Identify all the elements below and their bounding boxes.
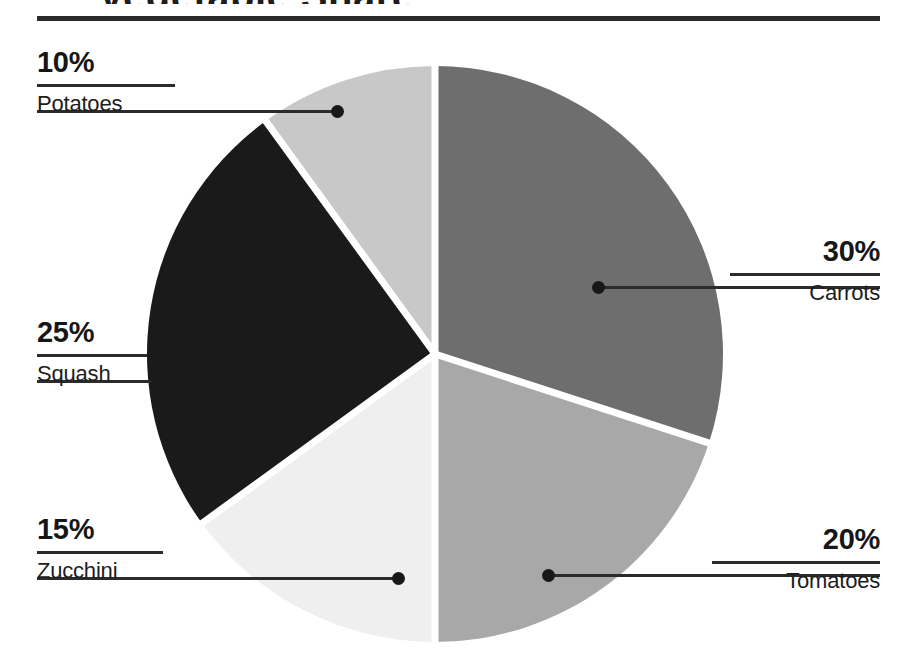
callout-tomatoes-label: Tomatoes <box>712 568 880 593</box>
callout-potatoes: 10% Potatoes <box>37 48 175 116</box>
callout-tomatoes-rule <box>712 561 880 564</box>
leader-dot-zucchini <box>392 572 405 585</box>
leader-dot-potatoes <box>331 105 344 118</box>
callout-zucchini-label: Zucchini <box>37 558 163 583</box>
leader-dot-carrots <box>592 281 605 294</box>
chart-page: Vegetable Share 10% Potatoes 25% Squash … <box>0 0 903 668</box>
callout-tomatoes: 20% Tomatoes <box>712 525 880 593</box>
callout-carrots-value: 30% <box>730 237 880 266</box>
callout-potatoes-label: Potatoes <box>37 91 175 116</box>
callout-zucchini-rule <box>37 551 163 554</box>
callout-zucchini: 15% Zucchini <box>37 515 163 583</box>
callout-squash-value: 25% <box>37 318 147 347</box>
callout-squash: 25% Squash <box>37 318 147 386</box>
callout-carrots: 30% Carrots <box>730 237 880 305</box>
callout-zucchini-value: 15% <box>37 515 163 544</box>
callout-carrots-rule <box>730 273 880 276</box>
callout-potatoes-value: 10% <box>37 48 175 77</box>
callout-squash-rule <box>37 354 147 357</box>
callout-tomatoes-value: 20% <box>712 525 880 554</box>
callout-carrots-label: Carrots <box>730 280 880 305</box>
callout-squash-label: Squash <box>37 361 147 386</box>
callout-potatoes-rule <box>37 84 175 87</box>
leader-dot-tomatoes <box>542 569 555 582</box>
